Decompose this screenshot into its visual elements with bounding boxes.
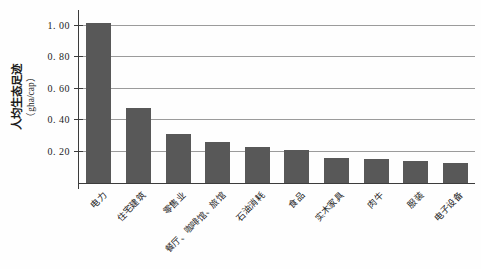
chart-container: 人均生态足迹 （gha/cap） 0. 200. 400. 600. 801. … <box>0 0 481 269</box>
x-category-label: 实木家具 <box>312 189 347 224</box>
bar-2 <box>126 108 151 183</box>
y-axis-tick <box>74 88 83 89</box>
bar-3 <box>166 134 191 183</box>
y-tick-label: 0. 40 <box>28 114 70 125</box>
y-axis-tick <box>74 25 83 26</box>
bar-5 <box>245 147 270 183</box>
bar-1 <box>86 23 111 183</box>
y-tick-label: 0. 80 <box>28 51 70 62</box>
y-tick-label: 0. 20 <box>28 146 70 157</box>
bar-8 <box>364 159 389 183</box>
x-category-label: 电子设备 <box>431 189 466 224</box>
gridline <box>79 56 475 57</box>
y-axis-tick <box>74 56 83 57</box>
bar-9 <box>403 161 428 183</box>
y-axis-tick <box>74 151 83 152</box>
y-axis-tick <box>74 119 83 120</box>
x-category-label: 电力 <box>87 189 109 211</box>
x-category-label: 肉牛 <box>364 189 386 211</box>
gridline <box>79 25 475 26</box>
x-category-label: 住宅建筑 <box>114 189 149 224</box>
x-category-label: 服装 <box>404 189 426 211</box>
y-axis-title-text: 人均生态足迹 <box>10 64 24 130</box>
x-category-label: 食品 <box>285 189 307 211</box>
y-tick-label: 0. 60 <box>28 83 70 94</box>
x-category-label: 零售业 <box>160 189 188 217</box>
bar-10 <box>443 163 468 183</box>
bar-6 <box>284 150 309 183</box>
bar-4 <box>205 142 230 183</box>
x-category-label: 石油消耗 <box>233 189 268 224</box>
x-axis-category-labels: 电力住宅建筑零售业餐厅、咖啡馆、旅馆石油消耗食品实木家具肉牛服装电子设备 <box>78 187 474 267</box>
plot-area <box>78 10 475 184</box>
y-tick-label: 1. 00 <box>28 20 70 31</box>
bar-7 <box>324 158 349 183</box>
gridline <box>79 88 475 89</box>
